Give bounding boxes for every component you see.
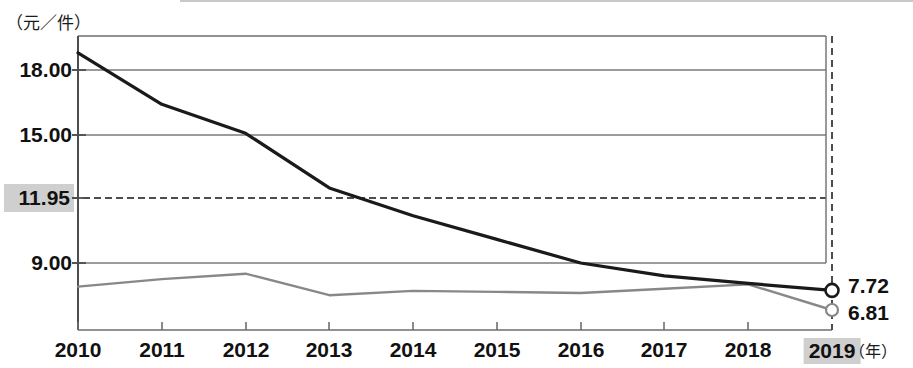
line-chart: （元／件） 18.00 15.00 11.95 9.00 2010 2011 2… xyxy=(0,0,913,368)
endpoint-marker-upper xyxy=(826,284,839,297)
endpoint-marker-lower xyxy=(826,304,838,316)
series-line-upper xyxy=(78,53,832,291)
x-tick-marks xyxy=(78,322,748,330)
plot-canvas xyxy=(0,0,913,368)
series-line-lower xyxy=(78,274,832,310)
